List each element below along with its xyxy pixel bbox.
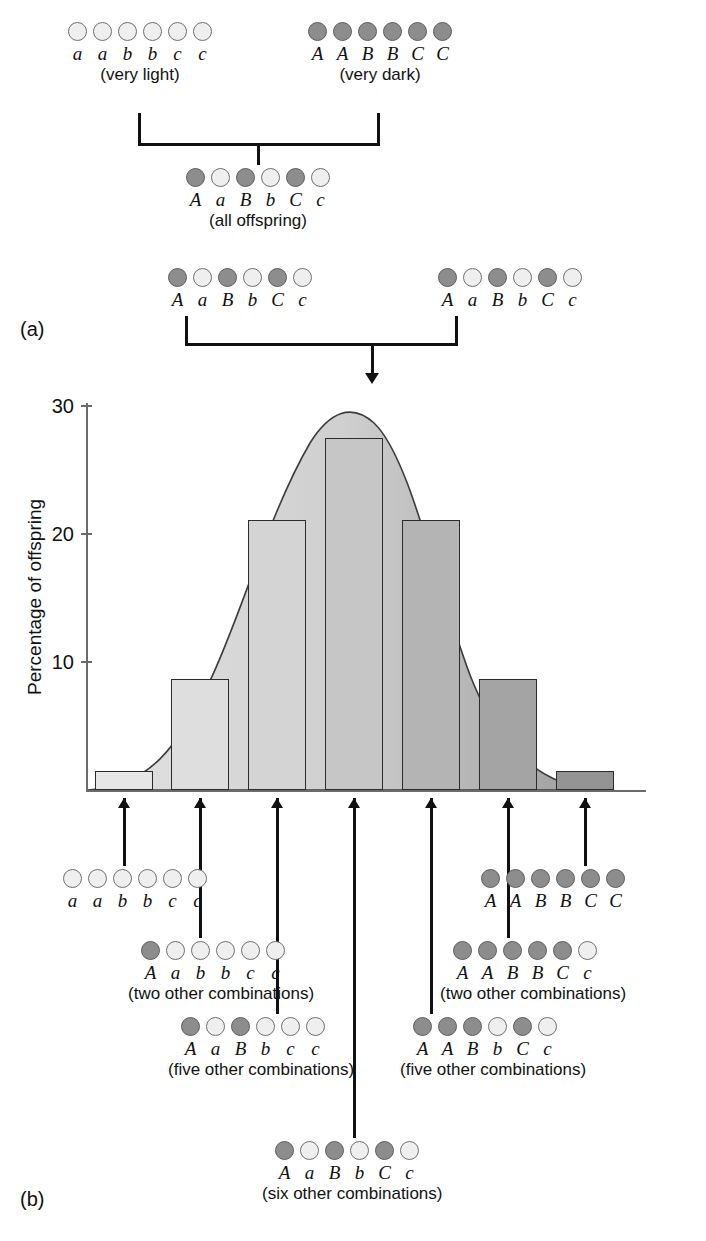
light-allele-dot-icon [400,1141,419,1160]
parent-very-dark: AABBCC(very dark) [295,22,465,85]
allele-letter: C [268,290,287,310]
dark-allele-dot-icon [383,22,402,41]
allele-letter: A [186,190,205,210]
light-allele-dot-icon [311,168,330,187]
allele-letter: c [311,190,330,210]
dark-allele-dot-icon [236,168,255,187]
dark-allele-dot-icon [581,869,600,888]
f1-parent-left: AaBbCc [155,268,325,310]
dark-allele-dot-icon [506,869,525,888]
allele-letter: B [325,1163,344,1183]
allele-letter: b [143,44,162,64]
allele-letter: c [563,290,582,310]
allele-dot-row [468,869,638,888]
dark-allele-dot-icon [231,1017,250,1036]
allele-letter: A [478,963,497,983]
light-allele-dot-icon [211,168,230,187]
genotype-AABBCc: AABBCc(two other combinations) [440,941,610,1004]
allele-letter: a [63,891,82,911]
allele-dot-row [173,168,343,187]
allele-letter-row: AABBCc [440,963,610,983]
genotype-caption: (very light) [55,65,225,85]
light-allele-dot-icon [191,941,210,960]
allele-letter: A [168,290,187,310]
dark-allele-dot-icon [531,869,550,888]
genotype-AABBCC: AABBCC [468,869,638,911]
allele-letter: c [168,44,187,64]
allele-letter: a [211,190,230,210]
genotype-caption: (very dark) [295,65,465,85]
panel-b-label: (b) [20,1188,44,1210]
light-allele-dot-icon [243,268,262,287]
allele-letter: B [218,290,237,310]
light-allele-dot-icon [350,1141,369,1160]
light-allele-dot-icon [463,268,482,287]
allele-letter: b [138,891,157,911]
allele-letter: B [528,963,547,983]
allele-letter-row: AABbCc [400,1039,570,1059]
dark-allele-dot-icon [453,941,472,960]
cross-drop [371,343,374,375]
dark-allele-dot-icon [358,22,377,41]
allele-letter: b [118,44,137,64]
allele-letter-row: aabbcc [55,44,225,64]
allele-letter: C [553,963,572,983]
allele-letter: c [193,44,212,64]
light-allele-dot-icon [118,22,137,41]
dark-allele-dot-icon [463,1017,482,1036]
light-allele-dot-icon [578,941,597,960]
light-allele-dot-icon [138,869,157,888]
bar [479,679,537,790]
allele-dot-row [262,1141,432,1160]
allele-letter: A [438,290,457,310]
allele-letter-row: AaBbCc [155,290,325,310]
allele-letter-row: Aabbcc [128,963,298,983]
dark-allele-dot-icon [186,168,205,187]
genotype-arrowhead-icon [118,798,130,808]
allele-letter: b [350,1163,369,1183]
light-allele-dot-icon [488,1017,507,1036]
allele-letter: C [286,190,305,210]
genotype-arrow-line [353,798,356,1138]
allele-letter: A [181,1039,200,1059]
dark-allele-dot-icon [218,268,237,287]
allele-letter: B [503,963,522,983]
allele-letter-row: AABBCC [295,44,465,64]
allele-letter: c [188,891,207,911]
allele-letter: a [88,891,107,911]
cross-right-stem [455,316,458,346]
allele-letter: a [193,290,212,310]
dark-allele-dot-icon [438,268,457,287]
light-allele-dot-icon [538,1017,557,1036]
allele-letter: A [438,1039,457,1059]
allele-letter: c [578,963,597,983]
allele-letter: A [333,44,352,64]
light-allele-dot-icon [166,941,185,960]
panel-a-label: (a) [20,318,44,340]
light-allele-dot-icon [206,1017,225,1036]
allele-letter: B [531,891,550,911]
light-allele-dot-icon [241,941,260,960]
allele-letter: c [306,1039,325,1059]
dark-allele-dot-icon [181,1017,200,1036]
genotype-caption: (two other combinations) [440,984,610,1004]
allele-letter: C [433,44,452,64]
bar [95,771,153,790]
allele-letter: B [556,891,575,911]
allele-dot-row [50,869,220,888]
allele-dot-row [440,941,610,960]
genotype-AaBbcc: AaBbcc(five other combinations) [168,1017,338,1080]
parent-very-light: aabbcc(very light) [55,22,225,85]
light-allele-dot-icon [63,869,82,888]
dark-allele-dot-icon [308,22,327,41]
dark-allele-dot-icon [438,1017,457,1036]
bar [325,438,383,790]
dark-allele-dot-icon [168,268,187,287]
allele-letter: B [488,290,507,310]
genotype-arrowhead-icon [348,798,360,808]
genotype-caption: (six other combinations) [262,1184,432,1204]
allele-letter: C [375,1163,394,1183]
light-allele-dot-icon [266,941,285,960]
genotype-caption: (five other combinations) [168,1060,338,1080]
allele-letter: A [141,963,160,983]
